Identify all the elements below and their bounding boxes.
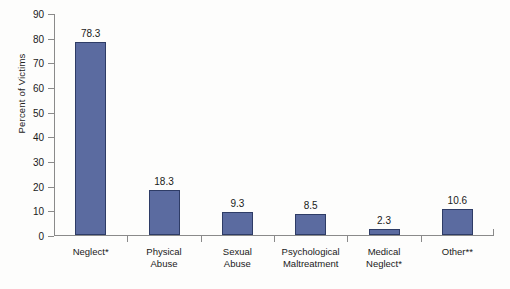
y-axis-tick — [48, 211, 54, 212]
bar — [222, 212, 253, 235]
y-axis-tick — [48, 14, 54, 15]
x-axis-category-label: Other** — [411, 246, 503, 258]
bar-chart: Percent of Victims 0102030405060708090 7… — [0, 0, 510, 289]
x-axis-tick — [274, 236, 275, 242]
y-axis-line — [54, 14, 55, 236]
y-axis-tick-label: 70 — [14, 58, 44, 69]
y-axis-tick-label: 60 — [14, 83, 44, 94]
bar-value-label: 8.5 — [304, 200, 318, 211]
y-axis-tick — [48, 39, 54, 40]
bar-value-label: 18.3 — [154, 176, 173, 187]
x-axis-right-cap — [493, 229, 494, 236]
bar — [295, 214, 326, 235]
plot-area: 0102030405060708090 78.318.39.38.52.310.… — [54, 14, 494, 236]
y-axis-tick-label: 0 — [14, 231, 44, 242]
bar — [369, 229, 400, 235]
x-axis-tick — [347, 236, 348, 242]
x-axis-tick — [127, 236, 128, 242]
bar — [75, 42, 106, 235]
y-axis-tick-label: 50 — [14, 107, 44, 118]
x-axis-tick — [421, 236, 422, 242]
y-axis-tick-label: 20 — [14, 181, 44, 192]
y-axis-tick-label: 30 — [14, 157, 44, 168]
y-axis-tick-label: 10 — [14, 206, 44, 217]
bar-value-label: 9.3 — [230, 198, 244, 209]
y-axis-tick — [48, 63, 54, 64]
y-axis-tick — [48, 236, 54, 237]
y-axis-tick — [48, 113, 54, 114]
bar-value-label: 78.3 — [81, 28, 100, 39]
y-axis-tick — [48, 137, 54, 138]
y-axis-tick-label: 80 — [14, 33, 44, 44]
bar-value-label: 2.3 — [377, 215, 391, 226]
y-axis-tick — [48, 88, 54, 89]
y-axis-tick-label: 40 — [14, 132, 44, 143]
bar — [149, 190, 180, 235]
x-axis-tick — [201, 236, 202, 242]
bar-value-label: 10.6 — [448, 195, 467, 206]
y-axis-tick-label: 90 — [14, 9, 44, 20]
y-axis-tick — [48, 162, 54, 163]
y-axis-tick — [48, 187, 54, 188]
bar — [442, 209, 473, 235]
